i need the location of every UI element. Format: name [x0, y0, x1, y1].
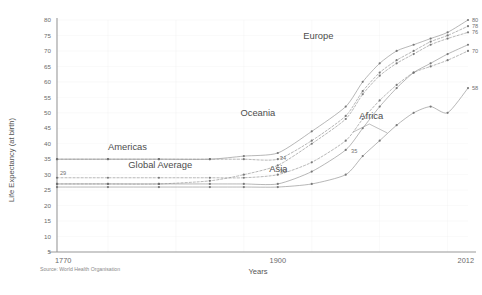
x-axis-ticks: 177019002012 — [55, 256, 474, 265]
data-point — [277, 158, 279, 160]
data-point — [447, 112, 449, 114]
data-point — [379, 62, 381, 64]
data-point — [379, 106, 381, 108]
data-point — [413, 50, 415, 52]
mid-value-label: 34 — [280, 155, 286, 161]
data-point — [158, 183, 160, 185]
y-tick-label: 60 — [44, 78, 51, 85]
data-point — [467, 44, 469, 46]
data-point — [447, 59, 449, 61]
endpoint-value-label: 70 — [472, 48, 478, 54]
data-point — [396, 62, 398, 64]
data-point — [379, 75, 381, 77]
data-point — [413, 53, 415, 55]
data-point — [209, 180, 211, 182]
data-point — [277, 183, 279, 185]
y-tick-label: 30 — [44, 171, 51, 178]
data-point — [243, 183, 245, 185]
x-tick-label: 2012 — [458, 256, 474, 265]
data-point — [467, 25, 469, 27]
data-point — [158, 177, 160, 179]
series-label-global-average: Global Average — [128, 159, 192, 170]
data-point — [396, 59, 398, 61]
y-tick-label: 5 — [48, 248, 52, 255]
data-point — [345, 106, 347, 108]
data-point — [311, 140, 313, 142]
data-point — [362, 93, 364, 95]
data-point — [56, 158, 58, 160]
y-tick-label: 75 — [44, 32, 51, 39]
y-axis-title: Life Expectancy (at birth) — [7, 118, 16, 202]
data-point — [56, 186, 58, 188]
data-point — [243, 155, 245, 157]
data-point — [311, 130, 313, 132]
endpoint-value-label: 58 — [472, 85, 478, 91]
data-point — [107, 177, 109, 179]
y-tick-label: 45 — [44, 124, 51, 131]
data-point — [396, 50, 398, 52]
data-point — [430, 44, 432, 46]
start-value-label: 29 — [60, 170, 66, 176]
data-point — [396, 124, 398, 126]
data-point — [430, 41, 432, 43]
data-point — [345, 140, 347, 142]
data-point — [467, 87, 469, 89]
data-point — [379, 140, 381, 142]
data-point — [362, 155, 364, 157]
data-point — [107, 183, 109, 185]
data-point — [209, 158, 211, 160]
data-point — [277, 186, 279, 188]
data-point — [209, 177, 211, 179]
y-axis-ticks: 5101520253035404550556065707580 — [44, 16, 51, 255]
y-tick-label: 55 — [44, 94, 51, 101]
data-point — [311, 161, 313, 163]
data-point — [467, 50, 469, 52]
y-tick-label: 15 — [44, 217, 51, 224]
data-point — [430, 106, 432, 108]
data-point — [209, 183, 211, 185]
data-point — [447, 31, 449, 33]
x-tick-label: 1770 — [55, 256, 71, 265]
data-point — [311, 143, 313, 145]
series-layer — [57, 20, 468, 187]
data-point — [430, 37, 432, 39]
endpoint-value-label: 78 — [472, 23, 478, 29]
value-labels-layer: 807876702930345835 — [60, 17, 478, 176]
series-label-europe: Europe — [303, 30, 333, 41]
data-point — [311, 183, 313, 185]
data-point — [277, 174, 279, 176]
y-tick-label: 40 — [44, 140, 51, 147]
data-point — [413, 44, 415, 46]
y-tick-label: 25 — [44, 186, 51, 193]
axis-layer — [49, 18, 476, 252]
series-line — [57, 20, 468, 159]
y-tick-label: 35 — [44, 155, 51, 162]
data-point — [430, 65, 432, 67]
data-point — [345, 118, 347, 120]
data-point — [430, 62, 432, 64]
data-point — [345, 149, 347, 151]
data-point — [243, 186, 245, 188]
y-tick-label: 10 — [44, 233, 51, 240]
data-point — [243, 174, 245, 176]
data-point — [345, 174, 347, 176]
data-point — [56, 177, 58, 179]
data-point — [379, 99, 381, 101]
data-point — [447, 34, 449, 36]
data-point — [107, 186, 109, 188]
data-point — [396, 84, 398, 86]
data-point — [362, 90, 364, 92]
data-point — [447, 53, 449, 55]
series-label-africa: Africa — [359, 110, 384, 121]
annotation-label: 35 — [351, 148, 357, 154]
life-expectancy-chart: 5101520253035404550556065707580 17701900… — [0, 0, 482, 295]
data-points-layer — [56, 19, 469, 188]
data-point — [311, 170, 313, 172]
data-point — [467, 31, 469, 33]
data-point — [277, 152, 279, 154]
y-tick-label: 70 — [44, 47, 51, 54]
mid-value-label: 30 — [280, 168, 286, 174]
data-point — [413, 112, 415, 114]
data-point — [243, 177, 245, 179]
data-point — [396, 87, 398, 89]
